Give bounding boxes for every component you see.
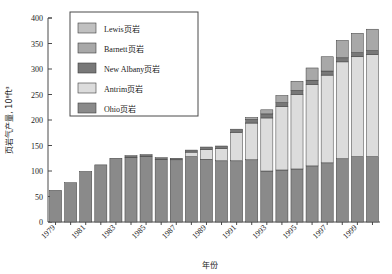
bar-segment	[185, 152, 197, 157]
x-tick-label: 1993	[251, 223, 269, 241]
bar-segment	[125, 156, 137, 158]
bar-segment	[336, 159, 348, 222]
bar-segment	[50, 190, 62, 222]
bar-segment	[246, 123, 258, 160]
bar[interactable]	[125, 156, 137, 222]
bar-segment	[276, 103, 288, 107]
bar[interactable]	[155, 158, 167, 222]
x-tick-label: 1999	[341, 223, 359, 241]
bar-segment	[306, 84, 318, 166]
bar-segment	[231, 129, 243, 132]
x-tick-label: 1987	[160, 223, 178, 241]
legend-label: Barnett页岩	[104, 44, 144, 54]
bar-segment	[261, 171, 273, 222]
bar[interactable]	[140, 155, 152, 222]
bar[interactable]	[351, 33, 363, 222]
bar-segment	[200, 150, 212, 160]
bar-segment	[306, 166, 318, 222]
bar-segment	[291, 95, 303, 169]
bar[interactable]	[321, 57, 333, 222]
y-tick-label: 100	[31, 167, 43, 176]
bar-segment	[276, 107, 288, 170]
bar[interactable]	[246, 117, 258, 222]
x-tick-label: 1995	[281, 223, 299, 241]
bar[interactable]	[95, 165, 107, 222]
bar[interactable]	[336, 40, 348, 222]
y-tick-label: 400	[31, 14, 43, 23]
bar-segment	[125, 157, 137, 222]
x-tick-label: 1991	[220, 223, 238, 241]
bar[interactable]	[110, 158, 122, 222]
bar[interactable]	[185, 150, 197, 222]
legend: Lewis页岩Barnett页岩New Albany页岩Antrim页岩Ohio…	[70, 12, 198, 116]
bar-segment	[185, 157, 197, 222]
legend-label: Lewis页岩	[104, 24, 140, 34]
legend-label: Antrim页岩	[104, 84, 143, 94]
legend-item[interactable]: Barnett页岩	[78, 43, 144, 54]
bar[interactable]	[276, 96, 288, 222]
bar-segment	[366, 51, 378, 55]
bar-segment	[366, 157, 378, 222]
bar-segment	[246, 117, 258, 119]
y-tick-label: 50	[35, 193, 43, 202]
bar[interactable]	[216, 146, 228, 222]
bar-segment	[231, 161, 243, 222]
bar-segment	[291, 90, 303, 94]
bar[interactable]	[200, 147, 212, 222]
y-axis: 050100150200250300350400	[31, 14, 52, 227]
bar-segment	[261, 114, 273, 118]
bar-segment	[170, 160, 182, 222]
legend-swatch	[78, 83, 96, 93]
bar[interactable]	[366, 29, 378, 222]
bar-segment	[155, 159, 167, 222]
bar[interactable]	[80, 172, 92, 222]
bar[interactable]	[65, 183, 77, 222]
legend-item[interactable]: Antrim页岩	[78, 83, 143, 94]
bar-segment	[351, 157, 363, 222]
bar[interactable]	[291, 81, 303, 222]
bar-segment	[366, 55, 378, 157]
bar-segment	[246, 160, 258, 222]
bar[interactable]	[170, 158, 182, 222]
y-tick-label: 350	[31, 40, 43, 49]
y-axis-title: 页岩气产量, 10⁸ft³	[4, 86, 14, 154]
stacked-bar-chart: 0501001502002503003504001979198119831985…	[0, 0, 392, 274]
bar-segment	[200, 147, 212, 150]
legend-label: Ohio页岩	[104, 104, 136, 114]
bar-segment	[351, 33, 363, 52]
bar-segment	[306, 80, 318, 84]
y-tick-label: 200	[31, 116, 43, 125]
bar-segment	[336, 58, 348, 62]
bar-segment	[351, 57, 363, 157]
bar-segment	[140, 155, 152, 157]
legend-label: New Albany页岩	[104, 64, 160, 74]
bar-segment	[216, 161, 228, 222]
bar[interactable]	[306, 68, 318, 222]
legend-swatch	[78, 23, 96, 33]
bar-segment	[291, 169, 303, 222]
bar-segment	[155, 158, 167, 160]
x-tick-label: 1997	[311, 223, 329, 241]
bar-segment	[95, 165, 107, 222]
bar-segment	[216, 146, 228, 149]
bar-segment	[321, 57, 333, 71]
bar[interactable]	[231, 129, 243, 222]
legend-item[interactable]: Ohio页岩	[78, 103, 136, 114]
bar-segment	[216, 149, 228, 161]
x-axis: 1979198119831985198719891991199319951997…	[39, 222, 380, 241]
legend-swatch	[78, 63, 96, 73]
bar-segment	[65, 183, 77, 222]
bar-segment	[321, 75, 333, 163]
legend-item[interactable]: Lewis页岩	[78, 23, 140, 34]
bar-segment	[276, 96, 288, 103]
bar-segment	[246, 119, 258, 123]
legend-item[interactable]: New Albany页岩	[78, 63, 160, 74]
bar-segment	[321, 163, 333, 222]
y-tick-label: 0	[39, 218, 43, 227]
x-tick-label: 1985	[130, 223, 148, 241]
x-tick-label: 1981	[69, 223, 87, 241]
y-tick-label: 250	[31, 91, 43, 100]
bar[interactable]	[50, 190, 62, 222]
bar[interactable]	[261, 110, 273, 222]
bar-segment	[351, 53, 363, 57]
